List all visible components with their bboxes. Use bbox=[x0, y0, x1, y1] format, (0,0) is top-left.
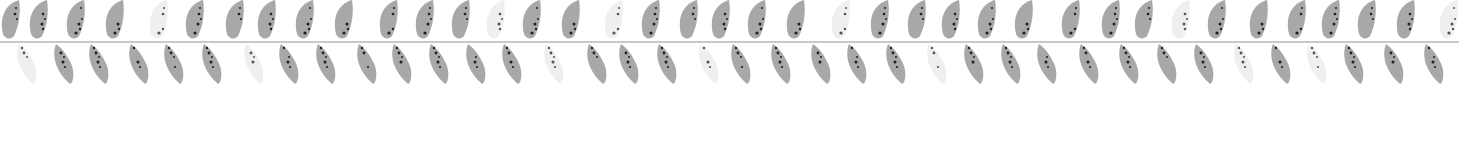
leaf-icon-top bbox=[827, 0, 857, 42]
leaf-icon-top bbox=[675, 0, 705, 42]
leaf-icon-bottom bbox=[1420, 42, 1450, 86]
leaf-icon-top bbox=[447, 0, 477, 42]
leaf-icon-top bbox=[375, 0, 405, 42]
leaf-icon-top bbox=[557, 0, 587, 42]
leaf-icon-bottom bbox=[583, 42, 613, 86]
leaf-icon-bottom bbox=[1153, 42, 1183, 86]
leaf-icon-top bbox=[782, 0, 812, 42]
leaf-icon-top bbox=[866, 0, 896, 42]
leaf-icon-bottom bbox=[882, 42, 912, 86]
leaf-icon-top bbox=[600, 0, 630, 42]
leaf-icon-bottom bbox=[425, 42, 455, 86]
leaf-icon-bottom bbox=[1075, 42, 1105, 86]
leaf-icon-top bbox=[1317, 0, 1347, 42]
leaf-icon-bottom bbox=[653, 42, 683, 86]
leaf-icon-bottom bbox=[727, 42, 757, 86]
leaf-icon-bottom bbox=[1267, 42, 1297, 86]
leaf-icon-top bbox=[1130, 0, 1160, 42]
leaf-icon-bottom bbox=[198, 42, 228, 86]
leaf-icon-top bbox=[903, 0, 933, 42]
leaf-icon-bottom bbox=[843, 42, 873, 86]
leaf-icon-top bbox=[973, 0, 1003, 42]
leaf-icon-bottom bbox=[85, 42, 115, 86]
leaf-icon-bottom bbox=[1033, 42, 1063, 86]
leaf-icon-top bbox=[1283, 0, 1313, 42]
leaf-icon-bottom bbox=[767, 42, 797, 86]
leaf-icon-bottom bbox=[275, 42, 305, 86]
leaf-icon-bottom bbox=[615, 42, 645, 86]
leaf-icon-top bbox=[253, 0, 283, 42]
leaf-icon-top bbox=[291, 0, 321, 42]
leaf-icon-bottom bbox=[388, 42, 418, 86]
leaf-icon-top bbox=[1097, 0, 1127, 42]
leaf-icon-bottom bbox=[1303, 42, 1333, 86]
leaf-icon-top bbox=[62, 0, 92, 42]
leaf-icon-top bbox=[25, 0, 55, 42]
leaf-icon-bottom bbox=[125, 42, 155, 86]
leaf-icon-top bbox=[1167, 0, 1197, 42]
leaf-icon-bottom bbox=[807, 42, 837, 86]
leaf-icon-bottom bbox=[13, 42, 43, 86]
leaf-icon-bottom bbox=[312, 42, 342, 86]
leaf-icon-bottom bbox=[997, 42, 1027, 86]
leaf-icon-top bbox=[1353, 0, 1383, 42]
leaf-icon-bottom bbox=[353, 42, 383, 86]
leaf-icon-bottom bbox=[1230, 42, 1260, 86]
leaf-garland-pattern bbox=[0, 0, 1459, 152]
leaf-icon-top bbox=[637, 0, 667, 42]
leaf-icon-bottom bbox=[923, 42, 953, 86]
leaf-icon-top bbox=[411, 0, 441, 42]
leaf-icon-top bbox=[0, 0, 27, 42]
leaf-icon-bottom bbox=[1190, 42, 1220, 86]
leaf-icon-bottom bbox=[960, 42, 990, 86]
leaf-icon-top bbox=[1392, 0, 1422, 42]
leaf-icon-bottom bbox=[462, 42, 492, 86]
leaf-icon-top bbox=[707, 0, 737, 42]
leaf-icon-top bbox=[1435, 0, 1459, 42]
leaf-icon-top bbox=[937, 0, 967, 42]
leaf-icon-bottom bbox=[498, 42, 528, 86]
leaf-icon-top bbox=[743, 0, 773, 42]
leaf-icon-top bbox=[1203, 0, 1233, 42]
leaf-icon-top bbox=[518, 0, 548, 42]
leaf-icon-bottom bbox=[1340, 42, 1370, 86]
leaf-icon-top bbox=[1245, 0, 1275, 42]
leaf-icon-top bbox=[330, 0, 360, 42]
leaf-icon-bottom bbox=[240, 42, 270, 86]
leaf-icon-top bbox=[1010, 0, 1040, 42]
leaf-icon-top bbox=[145, 0, 175, 42]
leaf-icon-bottom bbox=[1115, 42, 1145, 86]
leaf-icon-top bbox=[482, 0, 512, 42]
leaf-icon-bottom bbox=[50, 42, 80, 86]
leaf-icon-top bbox=[221, 0, 251, 42]
leaf-icon-bottom bbox=[540, 42, 570, 86]
leaf-icon-bottom bbox=[160, 42, 190, 86]
leaf-icon-top bbox=[101, 0, 131, 42]
leaf-icon-top bbox=[181, 0, 211, 42]
leaf-icon-top bbox=[1057, 0, 1087, 42]
leaf-icon-bottom bbox=[695, 42, 725, 86]
leaf-icon-bottom bbox=[1380, 42, 1410, 86]
